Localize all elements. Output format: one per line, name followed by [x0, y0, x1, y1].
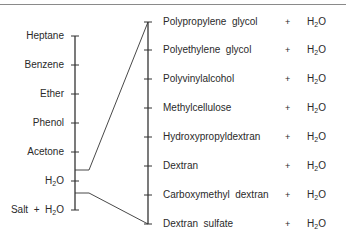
right-label: Carboxymethyl dextran [163, 189, 269, 201]
right-label: Dextran sulfate [163, 218, 233, 230]
plus-sign: + [285, 131, 290, 143]
left-label-heptane: Heptane [26, 30, 64, 42]
plus-sign: + [285, 160, 290, 172]
solvent-label: H2O [307, 218, 326, 230]
solvent-label: H2O [307, 44, 326, 56]
right-label: Polypropylene glycol [163, 16, 258, 28]
plus-sign: + [285, 44, 290, 56]
plus-sign: + [285, 189, 290, 201]
solvent-label: H2O [307, 16, 326, 28]
right-label: Methylcellulose [163, 102, 231, 114]
plus-sign: + [285, 73, 290, 85]
solvent-label: H2O [307, 189, 326, 201]
solvent-label: H2O [307, 131, 326, 143]
solvent-label: H2O [307, 160, 326, 172]
connector-top [75, 22, 148, 170]
plus-sign: + [285, 16, 290, 28]
solvent-label: H2O [307, 73, 326, 85]
left-label-water: H2O [45, 175, 64, 187]
solvent-label: H2O [307, 102, 326, 114]
right-label: Dextran [163, 160, 198, 172]
right-label: Polyvinylalcohol [163, 73, 234, 85]
plus-sign: + [285, 218, 290, 230]
connector-bottom [75, 193, 148, 224]
right-label: Hydroxypropyldextran [163, 131, 260, 143]
left-label-ether: Ether [40, 88, 64, 100]
plus-sign: + [285, 102, 290, 114]
right-label: Polyethylene glycol [163, 44, 251, 56]
left-label-phenol: Phenol [33, 117, 64, 129]
left-label-salt-water: Salt + H2O [11, 204, 64, 216]
left-label-benzene: Benzene [25, 59, 64, 71]
left-label-acetone: Acetone [27, 146, 64, 158]
